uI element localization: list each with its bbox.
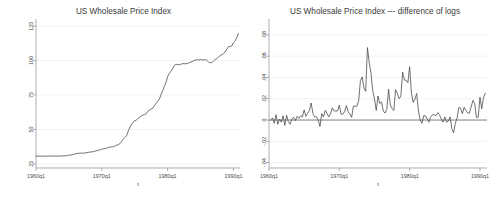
- x-tick-label: 1990q1: [471, 173, 489, 179]
- y-tick-label: .04: [261, 74, 267, 82]
- y-tick-label: 100: [28, 56, 34, 65]
- chart-panel-wpi-level: 2550751001251960q11970q11980q11990q1 US …: [0, 0, 247, 198]
- chart-svg-wpi-dlog: -.04-.020.02.04.06.081960q11970q11980q11…: [247, 0, 494, 198]
- y-tick-label: 0: [261, 119, 267, 122]
- chart-panel-wpi-dlog: -.04-.020.02.04.06.081960q11970q11980q11…: [247, 0, 494, 198]
- y-tick-label: .06: [261, 52, 267, 60]
- y-tick-label: 25: [28, 161, 34, 167]
- y-tick-label: 75: [28, 92, 34, 98]
- y-tick-label: 50: [28, 126, 34, 132]
- y-tick-label: -.04: [261, 158, 267, 167]
- panel-title-right: US Wholesale Price Index --- difference …: [290, 7, 460, 16]
- y-tick-label: -.02: [261, 137, 267, 146]
- x-tick-label: 1970q1: [93, 173, 111, 179]
- x-tick-label: 1980q1: [159, 173, 177, 179]
- chart-svg-wpi-level: 2550751001251960q11970q11980q11990q1 US …: [0, 0, 247, 198]
- x-tick-label: 1990q1: [224, 173, 242, 179]
- y-tick-label: 125: [28, 22, 34, 31]
- y-tick-label: .08: [261, 31, 267, 39]
- x-tick-label: 1980q1: [401, 173, 419, 179]
- x-tick-label: 1960q1: [260, 173, 278, 179]
- y-tick-label: .02: [261, 95, 267, 103]
- figure-root: 2550751001251960q11970q11980q11990q1 US …: [0, 0, 494, 198]
- panel-title-left: US Wholesale Price Index: [76, 7, 171, 16]
- x-tick-label: 1970q1: [330, 173, 348, 179]
- x-tick-label: 1960q1: [27, 173, 45, 179]
